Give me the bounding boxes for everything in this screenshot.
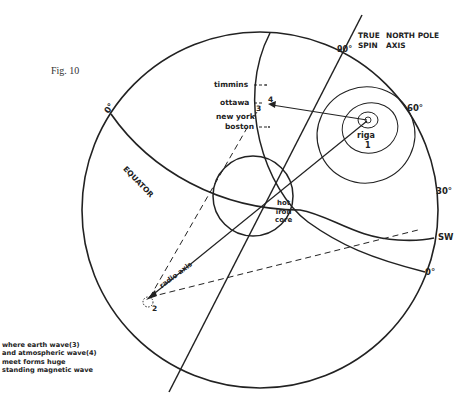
axis-label-axis: AXIS — [386, 41, 406, 51]
riga-number: 1 — [365, 142, 371, 150]
riga-ottawa-line — [272, 105, 367, 120]
marker-3: 3 — [256, 105, 261, 113]
marker-4: 4 — [268, 96, 273, 104]
note-line-2: and atmospheric wave(4) — [2, 349, 97, 357]
city-new-york: new york — [216, 113, 255, 121]
meridian-arc — [255, 33, 425, 272]
axis-label-true: TRUE — [358, 31, 386, 41]
core-line-1: hot — [275, 199, 292, 208]
degree-60: 60° — [407, 104, 423, 113]
degree-0-right: 0° — [425, 268, 435, 277]
marker-2: 2 — [152, 305, 157, 313]
figure-caption: Fig. 10 — [51, 65, 79, 76]
degree-30: 30° — [436, 187, 452, 196]
note-line-3: meet forms huge — [2, 358, 97, 366]
note-line-1: where earth wave(3) — [2, 341, 97, 349]
boston-dot — [268, 126, 270, 128]
core-line-2: iron — [275, 208, 292, 217]
hot-iron-core-label: hot iron core — [275, 199, 292, 225]
degree-90: 90° — [337, 46, 352, 54]
standing-wave-note: where earth wave(3) and atmospheric wave… — [2, 341, 97, 375]
riga-label: riga — [357, 132, 375, 140]
note-line-4: standing magnetic wave — [2, 366, 97, 374]
city-ottawa: ottawa — [220, 99, 249, 107]
city-boston: boston — [225, 123, 254, 131]
sw-label: SW — [438, 233, 454, 242]
dashed-line-to-newyork — [150, 128, 247, 297]
timmins-dot — [265, 84, 267, 86]
city-timmins: timmins — [214, 81, 248, 89]
axis-label-spin: SPIN — [358, 41, 386, 51]
spin-axis-label: TRUENORTH POLE SPINAXIS — [358, 31, 439, 51]
axis-label-north-pole: NORTH POLE — [386, 31, 439, 41]
core-line-3: core — [275, 216, 292, 225]
